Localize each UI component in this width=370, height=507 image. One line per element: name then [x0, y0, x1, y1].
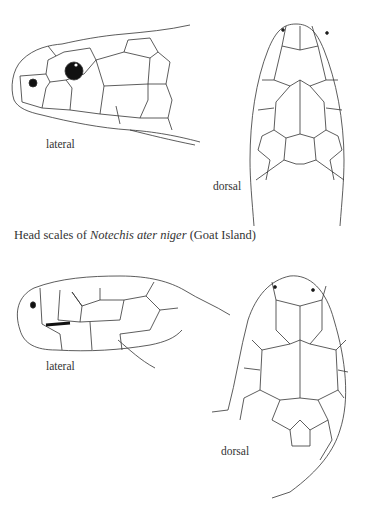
bottom-lateral-label: lateral: [46, 360, 75, 372]
top-dorsal-head-drawing: [250, 24, 344, 226]
top-figure-drawings: [0, 0, 370, 507]
top-dorsal-label: dorsal: [213, 180, 241, 192]
bottom-dorsal-head-drawing: [212, 276, 348, 498]
caption-prefix: Head scales of: [14, 228, 90, 242]
bottom-dorsal-label: dorsal: [221, 445, 249, 457]
figure-caption: Head scales of Notechis ater niger (Goat…: [14, 228, 256, 243]
bottom-lateral-head-drawing: [17, 276, 230, 368]
top-lateral-label: lateral: [46, 138, 75, 150]
caption-suffix: (Goat Island): [187, 228, 256, 242]
top-lateral-head-drawing: [12, 25, 200, 145]
caption-species: Notechis ater niger: [90, 228, 187, 242]
